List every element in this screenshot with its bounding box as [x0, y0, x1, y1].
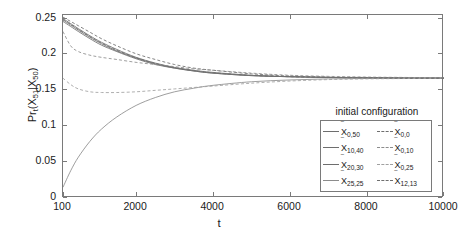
legend-swatch-solid-icon: [323, 177, 339, 184]
legend-entry-label: X‾0,10: [395, 143, 414, 154]
x-tick-label: 8000: [336, 201, 396, 212]
legend-entry[interactable]: X‾10,40: [323, 140, 377, 157]
legend-entry[interactable]: X‾0,50: [323, 123, 377, 140]
x-axis-label: t: [199, 217, 239, 229]
legend-entry-label: X‾25,25: [341, 176, 364, 187]
legend-entry-label: X‾10,40: [341, 143, 364, 154]
chart-figure: 0.25 0.2 0.15 0.1 0.05 0 Prt(X51|X50) 10…: [0, 0, 459, 235]
legend-entry[interactable]: X‾0,25: [377, 156, 431, 173]
legend-entry[interactable]: X‾20,30: [323, 156, 377, 173]
series-line: [63, 78, 444, 92]
x-tick-label: 6000: [259, 201, 319, 212]
series-line: [63, 21, 444, 78]
series-line: [63, 19, 444, 78]
x-tick-label: 4000: [182, 201, 242, 212]
legend-swatch-solid-icon: [323, 161, 339, 168]
y-tick-label: 0.05: [12, 155, 56, 166]
series-line: [63, 20, 444, 78]
x-tick-label: 2000: [105, 201, 165, 212]
legend-entry[interactable]: X‾25,25: [323, 173, 377, 190]
legend-entry[interactable]: X‾0,10: [377, 140, 431, 157]
legend-entry-label: X‾12,13: [395, 176, 418, 187]
y-tick-label: 0.25: [12, 12, 56, 23]
y-axis-label-text: Prt(X51|X50): [26, 68, 38, 123]
y-axis-label: Prt(X51|X50): [26, 35, 40, 155]
legend-swatch-dashed-icon: [377, 128, 393, 135]
legend-entry[interactable]: X‾0,0: [377, 123, 431, 140]
x-tick-label: 10000: [413, 201, 459, 212]
legend-entry[interactable]: X‾12,13: [377, 173, 431, 190]
series-line: [63, 17, 444, 78]
series-line: [63, 32, 444, 78]
legend-entry-label: X‾0,25: [395, 160, 414, 171]
legend-swatch-dashed-icon: [377, 144, 393, 151]
x-tick-label: 100: [32, 201, 92, 212]
legend-box: X‾0,50X‾0,0X‾10,40X‾0,10X‾20,30X‾0,25X‾2…: [320, 120, 432, 192]
legend-entry-label: X‾20,30: [341, 160, 364, 171]
legend-swatch-solid-icon: [323, 144, 339, 151]
series-line: [63, 19, 444, 79]
legend-swatch-solid-icon: [323, 128, 339, 135]
legend-title: initial configuration: [318, 106, 436, 117]
legend-entries: X‾0,50X‾0,0X‾10,40X‾0,10X‾20,30X‾0,25X‾2…: [321, 121, 431, 191]
legend-swatch-dashed-icon: [377, 161, 393, 168]
legend-swatch-dashed-icon: [377, 177, 393, 184]
